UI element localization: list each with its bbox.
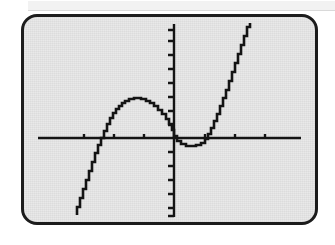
page-top-strip — [28, 1, 335, 11]
screenshot-canvas — [0, 0, 335, 245]
calculator-screen-frame — [21, 14, 318, 225]
function-graph — [24, 17, 315, 222]
cubic-curve — [77, 23, 250, 215]
